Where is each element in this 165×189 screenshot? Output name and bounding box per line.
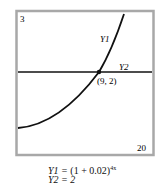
xmax-label: 20: [137, 143, 147, 153]
intersection-label: (9, 2): [97, 76, 117, 86]
y2-formula: Y2 = 2: [48, 174, 75, 185]
y1-formula-base: (1 + 0.02): [70, 165, 110, 176]
graph-window: 3 20 Y1 Y2 (9, 2): [0, 0, 165, 189]
intersection-point: [97, 70, 101, 74]
ymax-label: 3: [20, 14, 25, 24]
y1-label: Y1: [100, 34, 110, 44]
graph-frame: [17, 11, 154, 155]
y1-formula-exponent: 4x: [110, 165, 116, 171]
y2-label: Y2: [119, 62, 129, 72]
y2-formula-text: Y2 = 2: [48, 174, 75, 185]
